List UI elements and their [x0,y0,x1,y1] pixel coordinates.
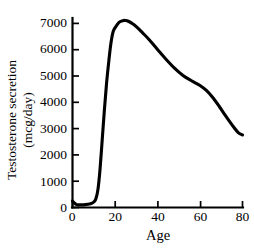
y-tick-label-2000: 2000 [40,147,67,162]
x-tick-label-80: 80 [236,209,250,224]
y-tick-labels: 0 1000 2000 3000 4000 5000 6000 7000 [40,15,67,215]
testosterone-curve [73,20,243,205]
x-tick-label-20: 20 [108,209,122,224]
y-tick-label-0: 0 [60,200,67,215]
y-axis-label-line2: (mcg/day) [20,92,35,147]
chart-svg: Testosterone secretion (mcg/day) 0 1000 … [0,0,254,248]
y-tick-label-6000: 6000 [40,41,67,56]
x-tick-labels: 0 20 40 60 80 [69,209,250,224]
x-tick-label-40: 40 [151,209,165,224]
x-axis-label: Age [146,227,170,243]
y-axis-ticks [73,23,79,207]
x-axis-ticks [73,201,243,207]
x-tick-label-0: 0 [69,209,76,224]
y-tick-label-7000: 7000 [40,15,67,30]
y-tick-label-3000: 3000 [40,121,67,136]
y-axis-label-line1: Testosterone secretion [4,60,19,180]
y-tick-label-1000: 1000 [40,174,67,189]
y-axis-label: Testosterone secretion (mcg/day) [4,60,35,180]
y-tick-label-5000: 5000 [40,68,67,83]
x-tick-label-60: 60 [194,209,208,224]
testosterone-secretion-chart: Testosterone secretion (mcg/day) 0 1000 … [0,0,254,248]
y-tick-label-4000: 4000 [40,94,67,109]
